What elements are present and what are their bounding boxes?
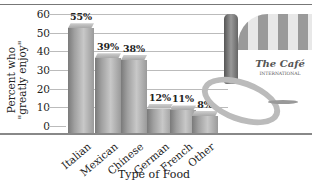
x-axis-line (0, 133, 312, 135)
y-tick-label: 10 (30, 102, 50, 112)
bar-chinese (121, 55, 147, 133)
cafe-table-icon (268, 100, 298, 104)
wine-bottle-icon (224, 14, 238, 84)
value-label: 38% (119, 43, 149, 54)
y-tick-label: 40 (30, 46, 50, 56)
y-tick-label: 20 (30, 84, 50, 94)
bar-mexican (95, 53, 121, 133)
x-axis-label: Type of Food (118, 168, 190, 181)
y-tick-label: 60 (30, 9, 50, 19)
y-tick-label: 0 (30, 121, 50, 131)
title-rule (0, 4, 312, 5)
cafe-sign: The Café (252, 58, 308, 69)
y-axis-label: Percent who"greatly enjoy" (2, 30, 32, 130)
y-tick-label: 30 (30, 65, 50, 75)
y-tick-label: 50 (30, 28, 50, 38)
value-label: 55% (66, 11, 96, 22)
gridline (48, 126, 66, 127)
bar-other (192, 111, 218, 133)
awning-illustration (238, 14, 312, 50)
bar-italian (68, 23, 94, 133)
cafe-sign-sub: INTERNATIONAL (252, 71, 308, 76)
